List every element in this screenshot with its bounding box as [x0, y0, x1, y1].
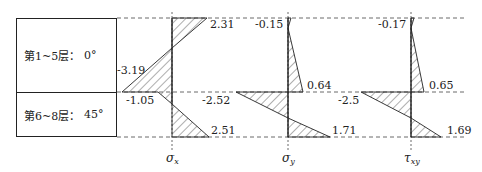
tau-xy-axis-label: τxy: [404, 151, 420, 166]
tau-xy-mid-lower-value: -2.5: [338, 94, 359, 107]
tau-xy-bottom-value: 1.69: [447, 124, 472, 137]
sigma-y-axis-label: σy: [282, 151, 295, 166]
sigma-x-mid-lower-value: -1.05: [126, 94, 154, 107]
sigma-y-mid-lower-value: -2.52: [202, 94, 230, 107]
tau-xy-mid-upper-value: 0.65: [429, 79, 454, 92]
sigma-x-plot: [122, 12, 209, 152]
sigma-x-top-value: 2.31: [210, 18, 235, 31]
sigma-y-top-value: -0.15: [255, 18, 283, 31]
sigma-y-bottom-value: 1.71: [332, 124, 357, 137]
sigma-x-mid-upper-value: -3.19: [117, 64, 145, 77]
tau-xy-top-value: -0.17: [378, 18, 406, 31]
sigma-x-bottom-value: 2.51: [211, 124, 236, 137]
stress-distribution-diagram: 2.31 -3.19 -1.05 2.51 -0.15 0.64 -2.52 1…: [0, 0, 482, 172]
sigma-x-axis-label: σx: [166, 151, 179, 166]
sigma-y-mid-upper-value: 0.64: [307, 79, 332, 92]
